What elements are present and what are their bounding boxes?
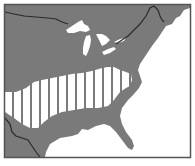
map-figure [0, 0, 195, 166]
eastern-us-map [0, 0, 195, 166]
